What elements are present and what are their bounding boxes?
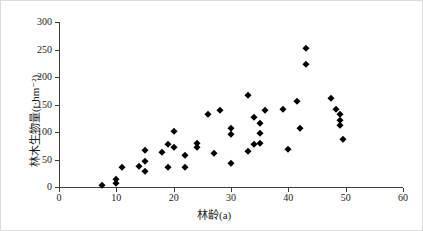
x-tick-label: 60 (388, 193, 418, 203)
data-point (216, 107, 222, 113)
y-tick-mark (55, 22, 59, 23)
x-tick-label: 10 (101, 193, 131, 203)
data-point (297, 125, 303, 131)
data-point (328, 95, 334, 101)
data-point (245, 148, 251, 154)
y-tick-mark (55, 105, 59, 106)
x-tick-label: 30 (216, 193, 246, 203)
y-axis-title: 林木生物量(t·hm⁻²) (26, 46, 42, 196)
data-point (228, 131, 234, 137)
y-tick-mark (55, 77, 59, 78)
data-point (119, 163, 125, 169)
data-point (245, 91, 251, 97)
data-point (228, 160, 234, 166)
data-point (159, 149, 165, 155)
x-axis-title: 林龄(a) (197, 206, 231, 222)
x-tick-label: 20 (159, 193, 189, 203)
data-point (170, 128, 176, 134)
data-point (142, 168, 148, 174)
data-point (142, 146, 148, 152)
data-point (337, 122, 343, 128)
data-point (279, 106, 285, 112)
y-tick-mark (55, 160, 59, 161)
data-point (285, 145, 291, 151)
y-axis-line (59, 22, 60, 188)
data-point (256, 140, 262, 146)
data-point (251, 113, 257, 119)
data-point (113, 176, 119, 182)
data-point (211, 150, 217, 156)
data-point (294, 97, 300, 103)
data-point (302, 61, 308, 67)
data-point (262, 107, 268, 113)
data-point (182, 163, 188, 169)
x-tick-label: 40 (273, 193, 303, 203)
y-tick-label: 300 (22, 17, 52, 27)
data-point (165, 164, 171, 170)
data-point (170, 144, 176, 150)
data-point (136, 163, 142, 169)
x-tick-label: 0 (44, 193, 74, 203)
data-point (256, 119, 262, 125)
data-point (228, 124, 234, 130)
data-point (256, 130, 262, 136)
data-point (142, 158, 148, 164)
y-tick-mark (55, 187, 59, 188)
data-point (302, 45, 308, 51)
data-point (205, 111, 211, 117)
data-point (182, 151, 188, 157)
x-tick-label: 50 (331, 193, 361, 203)
data-point (340, 135, 346, 141)
y-tick-mark (55, 132, 59, 133)
scatter-figure: 0102030405060050100150200250300 林龄(a) 林木… (0, 0, 423, 231)
y-tick-mark (55, 50, 59, 51)
